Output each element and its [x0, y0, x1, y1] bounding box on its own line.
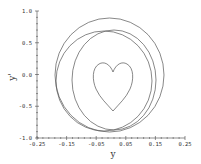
- x-tick-labels: -0.25 -0.15 -0.05 0.05 0.15 0.25: [29, 141, 192, 147]
- y-tick-labels: 1.0 0.5 0.0 -0.5 -1.0: [19, 8, 32, 141]
- y-axis: [35, 11, 39, 138]
- y-tick-label: 0.0: [22, 72, 32, 78]
- y-tick-label: 1.0: [22, 8, 32, 14]
- x-tick-label: 0.05: [119, 141, 132, 147]
- x-tick-label: -0.25: [29, 141, 46, 147]
- x-axis: [37, 136, 185, 140]
- y-tick-label: 0.5: [22, 40, 32, 46]
- x-tick-label: -0.15: [58, 141, 75, 147]
- outer-orbit-curve: [55, 18, 164, 132]
- plot-curves: [55, 18, 164, 132]
- y-tick-label: -0.5: [19, 103, 32, 109]
- x-tick-label: -0.05: [88, 141, 105, 147]
- x-tick-label: 0.15: [149, 141, 162, 147]
- inner-orbit-curve: [72, 30, 156, 130]
- phase-plot: 1.0 0.5 0.0 -0.5 -1.0 -0.25 -0.15 -0.05 …: [0, 0, 201, 164]
- middle-orbit-curve: [56, 31, 152, 131]
- x-axis-label: y: [109, 149, 116, 159]
- y-axis-label: y': [7, 73, 17, 82]
- heart-curve: [93, 63, 132, 111]
- x-tick-label: 0.25: [178, 141, 191, 147]
